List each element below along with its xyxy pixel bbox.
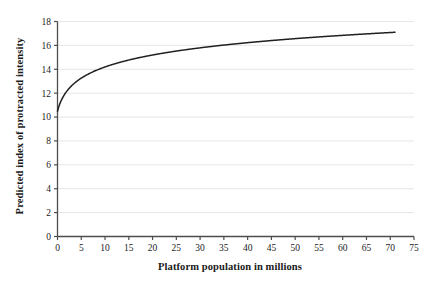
axes [58,22,415,237]
data-curve [58,32,395,111]
y-tick-label: 18 [42,17,52,27]
x-tick-label: 65 [362,243,372,253]
x-tick-label: 25 [172,243,182,253]
x-tick-label: 0 [55,243,60,253]
x-tick-label: 10 [100,243,110,253]
y-tick-label: 10 [42,112,52,122]
y-tick-label: 2 [46,208,51,218]
plot-area: 024681012141618 051015202530354045505560… [0,0,436,285]
x-tick-label: 50 [290,243,300,253]
x-tick-label: 20 [148,243,158,253]
y-tick-label: 4 [46,184,51,194]
x-tick-label: 15 [124,243,134,253]
y-tick-label: 16 [42,41,52,51]
y-tick-label: 0 [46,232,51,242]
y-axis-ticks: 024681012141618 [42,17,58,242]
gridlines [58,22,415,213]
x-tick-label: 5 [79,243,84,253]
x-tick-label: 40 [243,243,253,253]
series-line [58,32,395,111]
x-tick-label: 75 [409,243,419,253]
y-tick-label: 6 [46,160,51,170]
y-tick-label: 14 [42,65,52,75]
x-axis-ticks: 051015202530354045505560657075 [55,237,419,253]
x-tick-label: 30 [195,243,205,253]
x-tick-label: 55 [314,243,324,253]
x-tick-label: 60 [338,243,348,253]
y-tick-label: 12 [42,89,52,99]
x-tick-label: 35 [219,243,229,253]
chart-figure: Predicted index of protracted intensity … [0,0,436,285]
x-tick-label: 45 [267,243,277,253]
x-tick-label: 70 [385,243,395,253]
y-tick-label: 8 [46,136,51,146]
